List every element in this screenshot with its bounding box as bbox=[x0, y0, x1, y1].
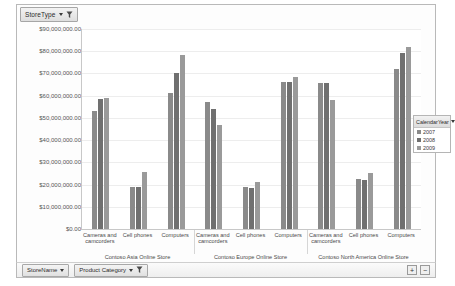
bar-2009[interactable] bbox=[293, 77, 298, 229]
bar-2009[interactable] bbox=[330, 100, 335, 229]
bar-2008[interactable] bbox=[98, 99, 103, 229]
funnel-filter-icon[interactable] bbox=[66, 11, 73, 19]
field-button-product-category-label: Product Category bbox=[79, 267, 126, 273]
bar-2007[interactable] bbox=[243, 187, 248, 229]
y-axis-tick-label: $30,000,000.00 bbox=[33, 159, 81, 165]
bar-2008[interactable] bbox=[249, 188, 254, 229]
bar-2009[interactable] bbox=[180, 55, 185, 229]
legend-item-label: 2007 bbox=[423, 129, 435, 135]
bar-2009[interactable] bbox=[104, 98, 109, 229]
y-axis-tick-label: $20,000,000.00 bbox=[33, 182, 81, 188]
chevron-down-icon[interactable] bbox=[59, 13, 63, 16]
bar-2009[interactable] bbox=[255, 182, 260, 229]
y-axis-tick-label: $90,000,000.00 bbox=[33, 26, 81, 32]
bar-2009[interactable] bbox=[217, 125, 222, 229]
x-axis-group-label: Contoso North America Online Store bbox=[299, 254, 428, 261]
chevron-down-icon[interactable] bbox=[60, 269, 64, 272]
legend-swatch-icon bbox=[417, 146, 421, 150]
gridline bbox=[82, 73, 421, 74]
bar-2008[interactable] bbox=[324, 83, 329, 229]
legend-swatch-icon bbox=[417, 138, 421, 142]
x-axis-group-label: Contoso Asia Online Store bbox=[73, 254, 202, 261]
zoom-in-button[interactable]: + bbox=[407, 265, 417, 275]
pivotchart-frame[interactable]: $90,000,000.00$80,000,000.00$70,000,000.… bbox=[16, 4, 436, 278]
bar-2007[interactable] bbox=[281, 82, 286, 229]
y-axis: $90,000,000.00$80,000,000.00$70,000,000.… bbox=[33, 29, 81, 230]
group-separator bbox=[194, 230, 195, 254]
y-axis-tick-label: $40,000,000.00 bbox=[33, 137, 81, 143]
field-button-storetype[interactable]: StoreType bbox=[20, 7, 78, 22]
legend-item-label: 2009 bbox=[423, 145, 435, 151]
pivotchart-field-bar[interactable]: StoreName Product Category + − bbox=[16, 262, 436, 278]
bar-2008[interactable] bbox=[287, 82, 292, 229]
y-axis-tick-label: $50,000,000.00 bbox=[33, 115, 81, 121]
bar-2009[interactable] bbox=[368, 173, 373, 229]
legend[interactable]: CalendarYear 200720082009 bbox=[413, 115, 451, 153]
legend-items: 200720082009 bbox=[414, 128, 450, 152]
chevron-down-icon[interactable] bbox=[451, 120, 455, 123]
bar-2008[interactable] bbox=[174, 73, 179, 229]
zoom-out-button[interactable]: − bbox=[420, 265, 430, 275]
y-axis-tick-label: $60,000,000.00 bbox=[33, 93, 81, 99]
legend-swatch-icon bbox=[417, 130, 421, 134]
x-axis-group-label: Contoso Europe Online Store bbox=[186, 254, 315, 261]
bar-2007[interactable] bbox=[130, 187, 135, 229]
bar-2008[interactable] bbox=[136, 187, 141, 229]
bar-2007[interactable] bbox=[92, 111, 97, 229]
gridline bbox=[82, 118, 421, 119]
gridline bbox=[82, 162, 421, 163]
funnel-filter-icon[interactable] bbox=[136, 266, 143, 274]
plot-area bbox=[81, 29, 421, 230]
field-button-storename[interactable]: StoreName bbox=[22, 264, 69, 277]
chevron-down-icon[interactable] bbox=[129, 269, 133, 272]
bar-2008[interactable] bbox=[362, 180, 367, 229]
group-separator bbox=[307, 230, 308, 254]
legend-item-label: 2008 bbox=[423, 137, 435, 143]
legend-header[interactable]: CalendarYear bbox=[414, 116, 450, 128]
zoom-controls[interactable]: + − bbox=[407, 265, 430, 275]
bar-2008[interactable] bbox=[211, 109, 216, 229]
field-button-storetype-label: StoreType bbox=[25, 11, 56, 18]
gridline bbox=[82, 29, 421, 30]
y-axis-tick-label: $10,000,000.00 bbox=[33, 204, 81, 210]
gridline bbox=[82, 96, 421, 97]
field-button-product-category[interactable]: Product Category bbox=[74, 264, 148, 277]
bar-2007[interactable] bbox=[205, 102, 210, 229]
legend-item[interactable]: 2007 bbox=[414, 128, 450, 136]
legend-item[interactable]: 2009 bbox=[414, 144, 450, 152]
gridline bbox=[82, 51, 421, 52]
gridline bbox=[82, 140, 421, 141]
x-axis-category-labels: Cameras and camcordersCell phonesCompute… bbox=[81, 232, 421, 254]
legend-item[interactable]: 2008 bbox=[414, 136, 450, 144]
bar-2009[interactable] bbox=[406, 47, 411, 229]
bar-2007[interactable] bbox=[168, 93, 173, 229]
bar-2007[interactable] bbox=[394, 69, 399, 229]
field-button-storename-label: StoreName bbox=[27, 267, 57, 273]
legend-title: CalendarYear bbox=[416, 119, 449, 125]
x-axis-category-label: Computers bbox=[374, 232, 428, 238]
bar-2009[interactable] bbox=[142, 172, 147, 229]
y-axis-tick-label: $70,000,000.00 bbox=[33, 70, 81, 76]
y-axis-tick-label: $80,000,000.00 bbox=[33, 48, 81, 54]
bar-2007[interactable] bbox=[318, 83, 323, 229]
bar-2007[interactable] bbox=[356, 179, 361, 229]
bar-2008[interactable] bbox=[400, 53, 405, 229]
